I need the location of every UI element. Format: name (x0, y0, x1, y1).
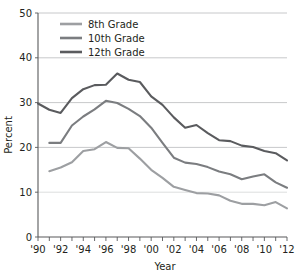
x-tick-marks (38, 237, 287, 241)
y-tick-label-50: 50 (19, 8, 32, 19)
chart-canvas: 01020304050 '90'92'94'96'98'00'02'04'06'… (0, 0, 297, 276)
y-tick-label-40: 40 (19, 52, 32, 63)
x-tick-label-1994: '94 (76, 244, 91, 255)
y-tick-label-10: 10 (19, 187, 32, 198)
x-tick-label-2004: '04 (189, 244, 204, 255)
x-tick-label-1992: '92 (53, 244, 68, 255)
y-tick-label-30: 30 (19, 97, 32, 108)
y-tick-label-20: 20 (19, 142, 32, 153)
x-tick-label-2000: '00 (143, 244, 158, 255)
x-tick-label-1990: '90 (30, 244, 45, 255)
y-axis-title: Percent (3, 116, 14, 154)
x-tick-label-2008: '08 (234, 244, 249, 255)
x-tick-label-1998: '98 (121, 244, 136, 255)
x-tick-labels: '90'92'94'96'98'00'02'04'06'08'10'12 (30, 244, 294, 255)
series-lines-group (38, 73, 287, 208)
line-chart: 01020304050 '90'92'94'96'98'00'02'04'06'… (0, 0, 297, 276)
gridlines-group (38, 13, 287, 192)
legend-label-12th-grade: 12th Grade (88, 47, 145, 58)
x-tick-label-1996: '96 (98, 244, 113, 255)
x-tick-label-2012: '12 (279, 244, 294, 255)
x-tick-label-2010: '10 (257, 244, 272, 255)
y-tick-label-0: 0 (26, 232, 32, 243)
series-line-10th-grade (49, 101, 287, 188)
legend: 8th Grade10th Grade12th Grade (60, 19, 145, 58)
x-axis-title: Year (153, 261, 176, 272)
legend-label-10th-grade: 10th Grade (88, 33, 145, 44)
x-tick-label-2002: '02 (166, 244, 181, 255)
x-tick-label-2006: '06 (211, 244, 226, 255)
y-tick-labels: 01020304050 (19, 8, 32, 243)
legend-label-8th-grade: 8th Grade (88, 19, 138, 30)
